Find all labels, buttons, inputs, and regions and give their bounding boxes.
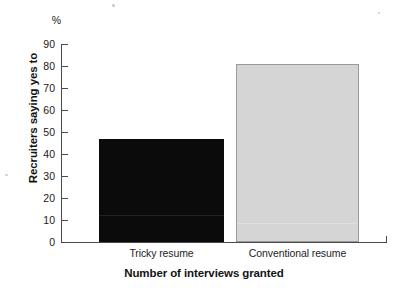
y-axis-tick-label: 10 xyxy=(28,214,55,226)
bar-chart-figure: % Recruiters saying yes to Number of int… xyxy=(0,0,408,290)
y-axis-tick-label: 40 xyxy=(28,148,55,160)
x-axis-category-label: Conventional resume xyxy=(236,247,359,259)
y-axis-tick-label: 60 xyxy=(28,104,55,116)
y-axis-tick-label: 50 xyxy=(28,126,55,138)
bar-conventional-resume[interactable] xyxy=(236,64,359,242)
y-axis-tick xyxy=(62,110,68,111)
y-axis-tick xyxy=(62,176,68,177)
y-axis-tick xyxy=(62,220,68,221)
y-axis-tick-label: 80 xyxy=(28,60,55,72)
x-axis-line xyxy=(61,242,387,243)
y-axis-tick-label: 90 xyxy=(28,38,55,50)
y-axis-tick xyxy=(62,66,68,67)
y-axis-tick xyxy=(62,44,68,45)
scan-speck-artifact xyxy=(5,174,8,176)
y-axis-tick xyxy=(62,88,68,89)
x-axis-end-cap xyxy=(386,236,387,243)
y-axis-tick-label: 20 xyxy=(28,192,55,204)
x-axis-category-label: Tricky resume xyxy=(99,247,224,259)
y-axis-tick xyxy=(62,242,68,243)
x-axis-title: Number of interviews granted xyxy=(0,267,408,279)
bar-tricky-resume[interactable] xyxy=(99,139,224,242)
scan-line-artifact xyxy=(237,223,358,224)
scan-speck-artifact xyxy=(112,4,115,7)
scan-line-artifact xyxy=(99,215,224,216)
scan-speck-artifact xyxy=(378,12,380,14)
y-axis-tick-label: 30 xyxy=(28,170,55,182)
y-axis-tick xyxy=(62,154,68,155)
y-axis-tick-label: 70 xyxy=(28,82,55,94)
y-axis-tick xyxy=(62,198,68,199)
y-axis-unit-label: % xyxy=(41,14,61,26)
y-axis-line xyxy=(61,44,62,243)
y-axis-tick xyxy=(62,132,68,133)
y-axis-tick-label: 0 xyxy=(28,236,55,248)
